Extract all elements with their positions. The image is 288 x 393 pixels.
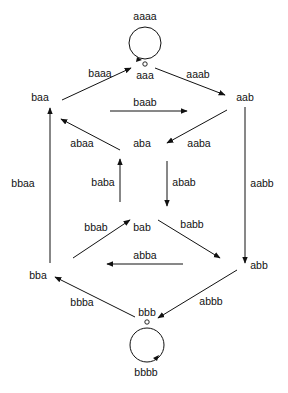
edge-bbbb-loop: bbbb (130, 320, 164, 378)
edge-label-aaaa: aaaa (133, 10, 157, 22)
edge-label-aaba: aaba (187, 137, 211, 149)
edge-label-bbaa: bbaa (11, 177, 35, 189)
edge-label-baaa: baaa (88, 67, 112, 79)
edge-label-abaa: abaa (70, 137, 94, 149)
edge-label-bbbb: bbbb (134, 366, 158, 378)
node-abb: abb (250, 259, 268, 271)
node-aab: aab (236, 91, 254, 103)
node-port-aaa (143, 62, 147, 66)
node-baa: baa (31, 91, 49, 103)
edge-aaaa-loop: aaaa (129, 10, 161, 66)
node-bbb: bbb (138, 306, 156, 318)
node-port-bbb (145, 320, 149, 324)
node-bba: bba (29, 269, 47, 281)
edge-label-abbb: abbb (199, 295, 223, 307)
edge-label-aaab: aaab (186, 68, 210, 80)
edge-label-baab: baab (133, 96, 157, 108)
edge-label-bbba: bbba (70, 296, 94, 308)
edge-bbba (55, 277, 135, 317)
edge-label-aabb: aabb (250, 177, 274, 189)
edge-label-abba: abba (133, 249, 157, 261)
edge-label-babb: babb (180, 218, 204, 230)
edge-label-baba: baba (91, 176, 115, 188)
edge-label-abab: abab (172, 176, 196, 188)
edge-abbb (158, 270, 237, 318)
edge-label-bbab: bbab (84, 221, 108, 233)
de-bruijn-diagram: aaaa bbbb aaa aab baa aba bab abb bba bb… (0, 0, 288, 393)
node-aaa: aaa (136, 69, 154, 81)
node-bab: bab (133, 221, 151, 233)
node-aba: aba (133, 137, 151, 149)
